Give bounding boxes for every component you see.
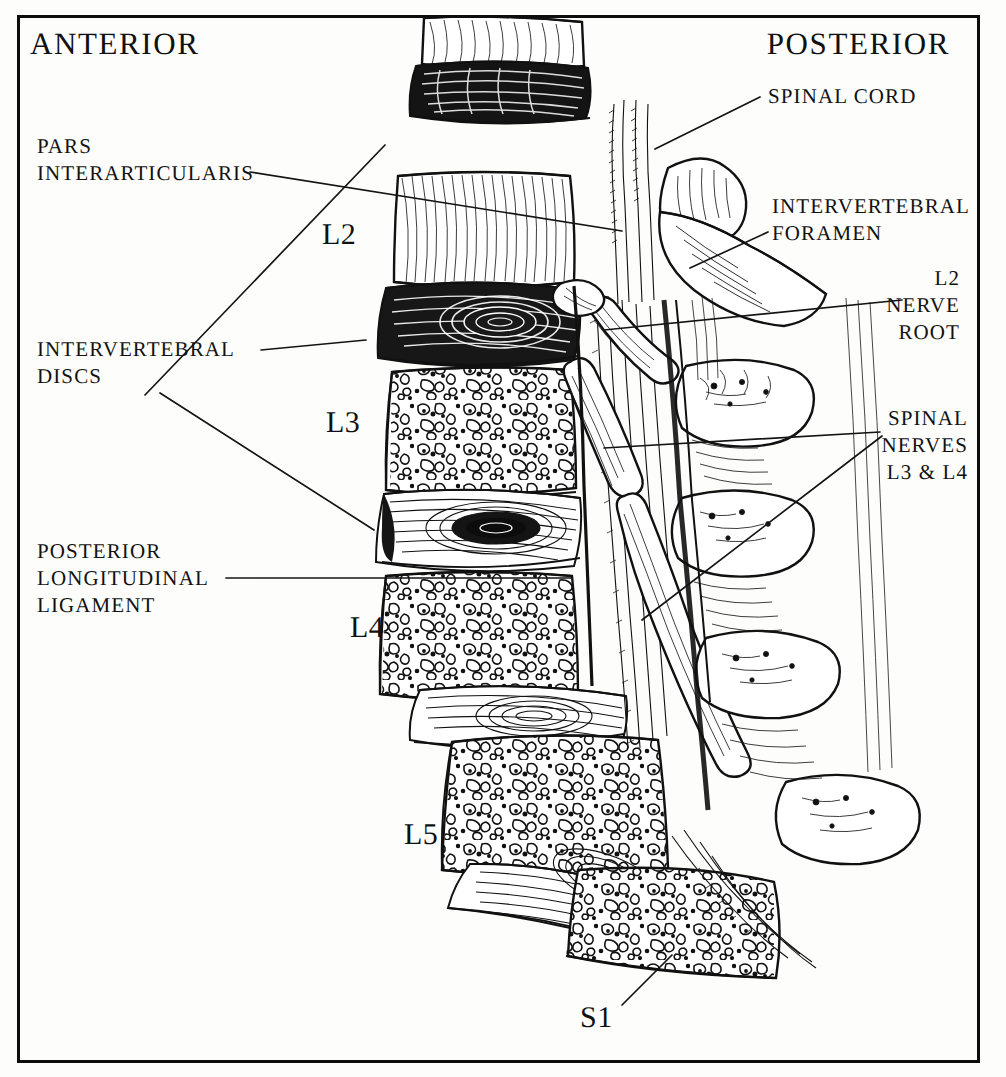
label-spinal-cord: SPINAL CORD (768, 84, 916, 109)
pll-line3: LIGAMENT (37, 593, 209, 618)
pars-interarticularis-line1: PARS (37, 134, 254, 159)
label-intervertebral-foramen: INTERVERTEBRAL FORAMEN (772, 194, 970, 244)
label-spinal-nerves-l3-l4: SPINAL NERVES L3 & L4 (860, 406, 968, 480)
pars-interarticularis-line2: INTERARTICULARIS (37, 161, 254, 186)
vertebra-label-L4: L4 (350, 610, 384, 645)
intervertebral-foramen-line1: INTERVERTEBRAL (772, 194, 970, 219)
orientation-label-anterior: ANTERIOR (30, 26, 200, 63)
spinal-nerves-line1: SPINAL (860, 406, 968, 431)
spinal-cord-line1: SPINAL CORD (768, 84, 916, 109)
pll-line2: LONGITUDINAL (37, 566, 209, 591)
vertebra-label-L3: L3 (326, 405, 360, 440)
label-pars-interarticularis: PARS INTERARTICULARIS (37, 134, 254, 184)
vertebra-label-S1: S1 (580, 1000, 613, 1035)
intervertebral-discs-line2: DISCS (37, 364, 235, 389)
intervertebral-discs-line1: INTERVERTEBRAL (37, 337, 235, 362)
l2-nerve-root-line1: L2 (860, 266, 960, 291)
label-intervertebral-discs: INTERVERTEBRAL DISCS (37, 337, 235, 387)
l2-nerve-root-line3: ROOT (860, 320, 960, 345)
intervertebral-foramen-line2: FORAMEN (772, 221, 970, 246)
pll-line1: POSTERIOR (37, 539, 209, 564)
label-l2-nerve-root: L2 NERVE ROOT (860, 266, 960, 340)
orientation-label-posterior: POSTERIOR (700, 26, 950, 63)
label-posterior-longitudinal-ligament: POSTERIOR LONGITUDINAL LIGAMENT (37, 539, 209, 613)
figure-canvas: ANTERIOR POSTERIOR PARS INTERARTICULARIS… (0, 0, 1006, 1077)
l2-nerve-root-line2: NERVE (860, 293, 960, 318)
vertebra-label-L5: L5 (404, 817, 438, 852)
vertebra-label-L2: L2 (322, 217, 356, 252)
spinal-nerves-line2: NERVES (860, 433, 968, 458)
spinal-nerves-line3: L3 & L4 (860, 460, 968, 485)
